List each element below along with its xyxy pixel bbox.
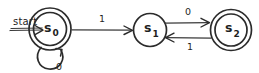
edge-s1-s2-shaft	[165, 23, 208, 24]
state-s1-label: s	[144, 20, 151, 35]
transition-s0-self[interactable]: 0	[38, 48, 63, 73]
start-arrow-shaft	[10, 30, 42, 31]
transition-s1-s2[interactable]: 0	[165, 6, 210, 27]
transition-label-s0-s1: 1	[99, 13, 105, 24]
state-s0-subscript: 0	[53, 28, 59, 38]
state-s1-subscript: 1	[153, 29, 159, 39]
transition-label-s2-s1: 1	[187, 41, 193, 52]
diagram-canvas: start s 0 0 1 s	[0, 0, 259, 73]
state-s2-subscript: 2	[234, 29, 240, 39]
state-machine-diagram: start s 0 0 1 s	[0, 0, 259, 73]
state-s0[interactable]: s 0	[29, 8, 71, 50]
transition-s2-s1[interactable]: 1	[166, 33, 212, 52]
transition-s0-s1[interactable]: 1	[72, 13, 133, 35]
start-label-underline	[11, 28, 42, 29]
transition-label-s1-s2: 0	[185, 6, 191, 17]
state-s2-label: s	[225, 20, 232, 35]
edge-s2-s1-shaft	[167, 38, 211, 39]
transition-label-s0-self: 0	[56, 61, 62, 72]
state-s1[interactable]: s 1	[134, 14, 167, 47]
state-s2[interactable]: s 2	[211, 10, 252, 51]
state-s0-label: s	[44, 20, 51, 35]
